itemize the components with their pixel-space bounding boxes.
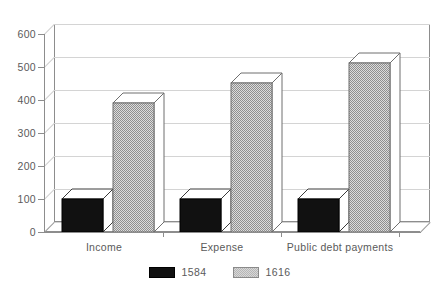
y-axis-label-200: 200 [18,160,36,172]
y-axis-label-400: 400 [18,94,36,106]
gridline-600 [54,24,430,25]
legend-label-1616: 1616 [266,266,291,278]
x-axis-label-expense: Expense [201,241,244,253]
depth-edge-bottom-right [420,222,431,233]
y-axis-label-0: 0 [30,226,36,238]
x-axis-line [44,232,421,233]
y-axis-line [44,34,45,233]
legend-item-1616[interactable]: 1616 [233,266,291,278]
y-axis-label-100: 100 [18,193,36,205]
plot-axes-front [44,34,420,232]
y-axis-label-500: 500 [18,61,36,73]
y-axis-label-600: 600 [18,28,36,40]
x-axis-label-public-debt-payments: Public debt payments [287,241,393,253]
x-axis-label-income: Income [86,241,122,253]
y-axis-label-300: 300 [18,127,36,139]
legend-swatch-1616 [233,267,259,278]
bar-chart: 600 500 400 300 200 100 0 Income Expense… [0,0,439,297]
legend-item-1584[interactable]: 1584 [149,266,207,278]
chart-legend: 1584 1616 [0,266,439,278]
legend-label-1584: 1584 [182,266,207,278]
legend-swatch-1584 [149,267,175,278]
